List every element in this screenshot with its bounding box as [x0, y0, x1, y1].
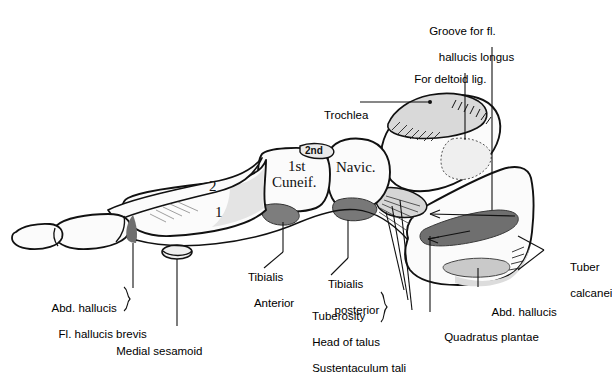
- callout-line: Abd. hallucis: [492, 306, 557, 318]
- callout-tuber-calcanei: Tuber calcanei: [551, 248, 612, 313]
- callout-line: Tibialis: [248, 271, 283, 283]
- callout-line: Abd. hallucis: [52, 302, 117, 314]
- callout-trochlea: Trochlea: [305, 96, 368, 135]
- distal-phalanx-bone: [12, 224, 63, 249]
- deltoid-ligament-area: [441, 138, 491, 179]
- bone-label-navicular: Navic.: [336, 159, 376, 175]
- callout-medial-sesamoid: Medial sesamoid: [97, 332, 202, 371]
- callout-line: Quadratus plantae: [444, 331, 539, 343]
- bone-label-2nd-cuneiform: 2nd: [305, 143, 323, 159]
- abd-hallucis-calcaneal-attachment: [443, 258, 510, 277]
- callout-abd-hallucis-right: Abd. hallucis: [473, 293, 557, 332]
- callout-line: Sustentaculum tali: [312, 362, 406, 374]
- callout-line: Tuberosity: [312, 310, 365, 322]
- bone-label-metatarsal-2: 2: [209, 178, 217, 195]
- callout-line: Tuber: [570, 261, 600, 273]
- bone-label-metatarsal-1: 1: [215, 204, 223, 221]
- callout-line: Head of talus: [312, 336, 380, 348]
- callout-for-deltoid-lig: For deltoid lig.: [395, 60, 486, 99]
- callout-line: Medial sesamoid: [116, 345, 202, 357]
- callout-line: For deltoid lig.: [414, 73, 486, 85]
- callout-line: Groove for fl.: [429, 25, 495, 37]
- bone-label-cuneiform: Cuneif.: [272, 174, 317, 190]
- bone-label-1st-cuneiform: 1st: [288, 158, 306, 174]
- callout-line: Trochlea: [324, 109, 368, 121]
- callout-line: Anterior: [248, 297, 294, 309]
- callout-tuberosity-head-sustentaculum: Tuberosity Head of talus Sustentaculum t…: [293, 297, 406, 376]
- callout-line: Tibialis: [328, 278, 363, 290]
- callout-tibialis-anterior: Tibialis Anterior: [229, 258, 294, 323]
- medial-sesamoid-bone: [162, 245, 192, 259]
- proximal-phalanx-bone: [54, 214, 131, 249]
- callout-line: calcanei: [570, 287, 612, 299]
